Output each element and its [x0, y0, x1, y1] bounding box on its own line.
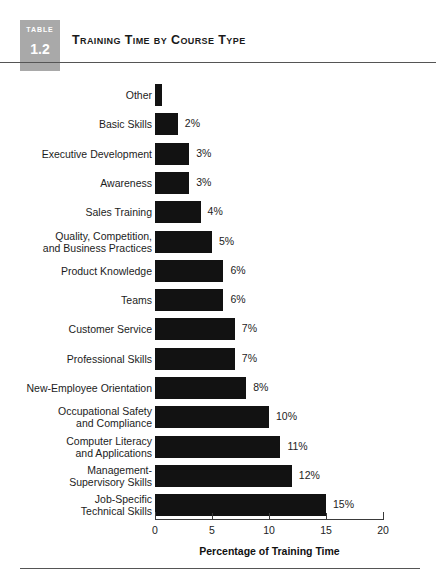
- category-label: New-Employee Orientation: [0, 382, 152, 394]
- bar: [155, 494, 326, 516]
- category-label: Computer Literacy and Applications: [0, 435, 152, 459]
- category-label: Teams: [0, 294, 152, 306]
- bar-value-label: 12%: [299, 469, 320, 481]
- bar: [155, 201, 201, 223]
- bar: [155, 260, 223, 282]
- axis-end-cap: [383, 512, 384, 520]
- bar-value-label: 15%: [333, 498, 354, 510]
- x-axis-tick-label: 10: [249, 524, 289, 536]
- chart-row: Teams6%: [0, 285, 436, 315]
- chart-row: Basic Skills2%: [0, 109, 436, 139]
- bar-value-label: 10%: [276, 410, 297, 422]
- chart-row: Customer Service7%: [0, 314, 436, 344]
- bar: [155, 289, 223, 311]
- chart-row: Sales Training4%: [0, 197, 436, 227]
- bar-value-label: 6%: [230, 264, 245, 276]
- category-label: Awareness: [0, 177, 152, 189]
- bar: [155, 143, 189, 165]
- bar-value-label: 4%: [208, 205, 223, 217]
- category-label: Job-Specific Technical Skills: [0, 493, 152, 517]
- chart-row: Occupational Safety and Compliance10%: [0, 402, 436, 432]
- bar-value-label: 7%: [242, 352, 257, 364]
- bar: [155, 318, 235, 340]
- x-axis-tick: [326, 513, 327, 519]
- bar-value-label: 8%: [253, 381, 268, 393]
- chart-row: Computer Literacy and Applications11%: [0, 432, 436, 462]
- x-axis-tick: [212, 513, 213, 519]
- category-label: Product Knowledge: [0, 265, 152, 277]
- bar-value-label: 11%: [287, 440, 307, 452]
- bar-chart: OtherBasic Skills2%Executive Development…: [0, 80, 436, 520]
- bar: [155, 348, 235, 370]
- table-badge-word: TABLE: [20, 25, 60, 34]
- bar: [155, 172, 189, 194]
- x-axis-tick-label: 15: [306, 524, 346, 536]
- x-axis-line: [155, 519, 384, 520]
- header-divider: [0, 62, 436, 63]
- chart-row: Other: [0, 80, 436, 110]
- chart-row: Management- Supervisory Skills12%: [0, 461, 436, 491]
- category-label: Quality, Competition, and Business Pract…: [0, 230, 152, 254]
- bar: [155, 231, 212, 253]
- bar-value-label: 5%: [219, 235, 234, 247]
- table-badge-number: 1.2: [20, 38, 60, 60]
- bar: [155, 377, 246, 399]
- x-axis-tick-label: 5: [192, 524, 232, 536]
- x-axis-tick: [269, 513, 270, 519]
- chart-row: Quality, Competition, and Business Pract…: [0, 227, 436, 257]
- bar-value-label: 2%: [185, 117, 200, 129]
- category-label: Sales Training: [0, 206, 152, 218]
- category-label: Executive Development: [0, 148, 152, 160]
- axis-end-cap: [155, 512, 156, 520]
- bar: [155, 84, 162, 106]
- chart-row: Awareness3%: [0, 168, 436, 198]
- chart-row: New-Employee Orientation8%: [0, 373, 436, 403]
- chart-row: Professional Skills7%: [0, 344, 436, 374]
- x-axis-tick-label: 20: [363, 524, 403, 536]
- category-label: Management- Supervisory Skills: [0, 464, 152, 488]
- category-label: Professional Skills: [0, 353, 152, 365]
- bar-value-label: 3%: [196, 176, 211, 188]
- bar: [155, 113, 178, 135]
- bar-value-label: 3%: [196, 147, 211, 159]
- bar-value-label: 6%: [230, 293, 245, 305]
- category-label: Occupational Safety and Compliance: [0, 405, 152, 429]
- table-number-badge: TABLE 1.2: [20, 20, 60, 71]
- chart-row: Executive Development3%: [0, 139, 436, 169]
- category-label: Customer Service: [0, 323, 152, 335]
- footer-divider: [20, 568, 420, 569]
- bar: [155, 465, 292, 487]
- bar: [155, 436, 280, 458]
- x-axis-title: Percentage of Training Time: [155, 545, 384, 557]
- page-title: Training Time by Course Type: [72, 33, 246, 47]
- category-label: Other: [0, 89, 152, 101]
- bar: [155, 406, 269, 428]
- bar-value-label: 7%: [242, 322, 257, 334]
- category-label: Basic Skills: [0, 118, 152, 130]
- x-axis-tick-label: 0: [135, 524, 175, 536]
- chart-row: Product Knowledge6%: [0, 256, 436, 286]
- chart-row: Job-Specific Technical Skills15%: [0, 490, 436, 520]
